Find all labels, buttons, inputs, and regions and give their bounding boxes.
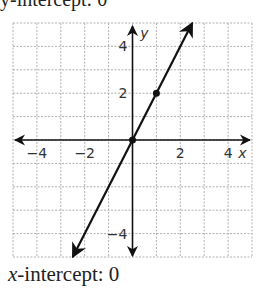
x-tick-label: −2 (74, 145, 95, 161)
x-tick-label: −4 (27, 145, 48, 161)
x-intercept-caption: x-intercept: 0 (8, 262, 119, 287)
data-point (153, 90, 160, 97)
y-tick-label: 4 (119, 38, 128, 54)
y-tick-label: −4 (107, 226, 128, 242)
caption-variable: x (8, 262, 17, 286)
coordinate-plane: −4−22442−4xy (0, 0, 262, 262)
y-tick-label: 2 (119, 85, 128, 101)
caption-text: -intercept: 0 (17, 262, 119, 286)
x-tick-label: 2 (176, 145, 185, 161)
x-tick-label: 4 (224, 145, 233, 161)
x-axis-label: x (237, 145, 247, 161)
data-point (129, 137, 136, 144)
y-axis-label: y (139, 25, 149, 41)
